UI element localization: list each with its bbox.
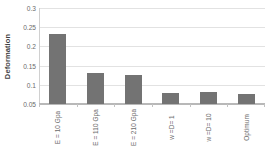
x-tick-label-text: Optimum bbox=[243, 114, 250, 141]
x-tick-label: w =D= 10 bbox=[190, 108, 228, 154]
y-tick-label: 0.2 bbox=[27, 43, 36, 50]
x-tick-label: w =D= 1 bbox=[152, 108, 190, 154]
bar-chart-figure: Deformation 0.050.10.150.20.250.3 E = 10… bbox=[0, 0, 270, 154]
y-tick-label: 0.3 bbox=[27, 5, 36, 12]
y-axis-title-label: Deformation bbox=[4, 33, 13, 78]
y-tick-label: 0.25 bbox=[23, 24, 36, 31]
y-tick-label: 0.15 bbox=[23, 62, 36, 69]
x-tick-label-text: w =D= 10 bbox=[205, 113, 212, 141]
x-tick-mark bbox=[39, 104, 40, 107]
bar bbox=[238, 94, 255, 104]
bar bbox=[49, 34, 66, 104]
y-tick-label: 0.1 bbox=[27, 81, 36, 88]
x-tick-mark bbox=[152, 104, 153, 107]
y-axis-tick-labels: 0.050.10.150.20.250.3 bbox=[14, 8, 38, 104]
x-tick-label-text: E = 210 Gpa bbox=[130, 109, 137, 146]
x-tick-label: E = 10 Gpa bbox=[39, 108, 77, 154]
x-tick-mark bbox=[77, 104, 78, 107]
x-tick-label-text: E = 10 Gpa bbox=[54, 111, 61, 145]
x-tick-mark bbox=[264, 104, 265, 107]
x-axis-tick-labels: E = 10 GpaE = 110 GpaE = 210 Gpaw =D= 1w… bbox=[39, 108, 265, 154]
x-tick-mark bbox=[190, 104, 191, 107]
x-tick-label: E = 110 Gpa bbox=[77, 108, 115, 154]
bar-series bbox=[39, 8, 265, 104]
plot-area bbox=[39, 8, 265, 104]
bar bbox=[87, 73, 104, 104]
bar bbox=[125, 75, 142, 104]
x-tick-label: Optimum bbox=[227, 108, 265, 154]
x-tick-mark bbox=[227, 104, 228, 107]
x-tick-label-text: E = 110 Gpa bbox=[92, 109, 99, 146]
x-tick-mark bbox=[114, 104, 115, 107]
x-tick-label: E = 210 Gpa bbox=[114, 108, 152, 154]
y-tick-label: 0.05 bbox=[23, 101, 36, 108]
x-tick-label-text: w =D= 1 bbox=[167, 115, 174, 140]
bar bbox=[200, 92, 217, 104]
bar bbox=[162, 93, 179, 104]
